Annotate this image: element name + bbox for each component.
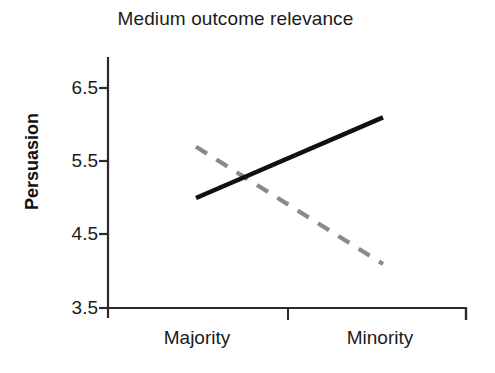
series-line-dashed: [196, 147, 383, 264]
plot-area: [0, 0, 495, 373]
chart-figure: Medium outcome relevance Persuasion 6.5 …: [0, 0, 495, 373]
series-line-solid: [196, 117, 383, 198]
